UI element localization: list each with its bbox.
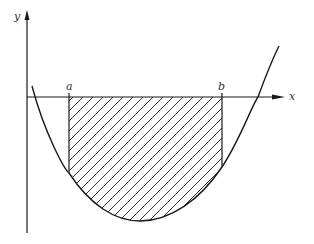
y-axis-arrow-icon [25, 10, 30, 20]
x-axis-label: x [289, 90, 296, 103]
x-axis-arrow-icon [272, 95, 285, 100]
y-axis [25, 10, 30, 233]
shaded-area [0, 90, 310, 240]
x-axis [27, 95, 285, 100]
y-axis-label: y [13, 10, 21, 23]
label-b: b [218, 80, 225, 93]
integral-diagram: y x a b [0, 0, 314, 244]
label-a: a [66, 80, 73, 93]
